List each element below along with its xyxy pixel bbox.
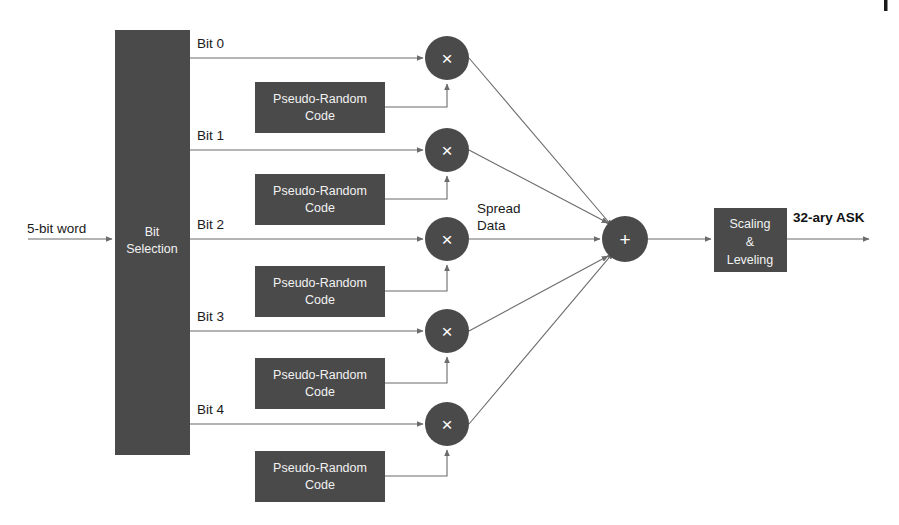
pn-code-label-2-line2: Code [305,293,335,307]
wire-pn3-to-multiplier [385,357,447,383]
pn-code-label-1-line2: Code [305,201,335,215]
bit-selection-label-line1: Bit [145,225,160,239]
scaling-label-line3: Leveling [727,253,774,267]
wire-pn0-to-multiplier [385,84,447,107]
pn-code-label-0-line1: Pseudo-Random [273,92,367,106]
spread-data-label-line1: Spread [477,201,521,216]
input-label: 5-bit word [27,221,86,236]
pn-code-label-2-line1: Pseudo-Random [273,276,367,290]
pn-code-block-2 [255,266,385,317]
bit-tap-label-2: Bit 2 [197,217,224,232]
bit-tap-label-1: Bit 1 [197,128,224,143]
multiply-icon-3: × [441,321,452,342]
pn-code-label-0-line2: Code [305,109,335,123]
pn-code-label-3-line2: Code [305,385,335,399]
multiply-icon-0: × [441,48,452,69]
pn-code-block-3 [255,358,385,409]
block-diagram: 5-bit word Bit Selection Bit 0 Bit 1 Bit… [0,0,899,525]
page-rule-mark [884,0,888,11]
pn-code-block-4 [255,451,385,502]
spread-data-label-line2: Data [477,218,506,233]
wire-pn1-to-multiplier [385,176,447,199]
pn-code-label-4-line1: Pseudo-Random [273,461,367,475]
bit-tap-label-3: Bit 3 [197,309,224,324]
bit-tap-label-0: Bit 0 [197,36,224,51]
wire-multiplier4-to-summer [469,253,613,424]
scaling-label-line2: & [746,235,755,249]
wire-pn2-to-multiplier [385,265,447,291]
bit-selection-label-line2: Selection [126,242,177,256]
plus-icon: + [619,229,630,250]
bit-tap-label-4: Bit 4 [197,402,225,417]
multiply-icon-2: × [441,229,452,250]
output-label: 32-ary ASK [793,210,865,225]
pn-code-label-1-line1: Pseudo-Random [273,184,367,198]
figure-canvas: 5-bit word Bit Selection Bit 0 Bit 1 Bit… [0,0,899,525]
multiply-icon-4: × [441,414,452,435]
wire-pn4-to-multiplier [385,450,447,476]
scaling-label-line1: Scaling [730,217,771,231]
pn-code-block-1 [255,174,385,225]
pn-code-label-3-line1: Pseudo-Random [273,368,367,382]
pn-code-block-0 [255,82,385,133]
multiply-icon-1: × [441,140,452,161]
pn-code-label-4-line2: Code [305,478,335,492]
wire-multiplier3-to-summer [469,256,608,331]
